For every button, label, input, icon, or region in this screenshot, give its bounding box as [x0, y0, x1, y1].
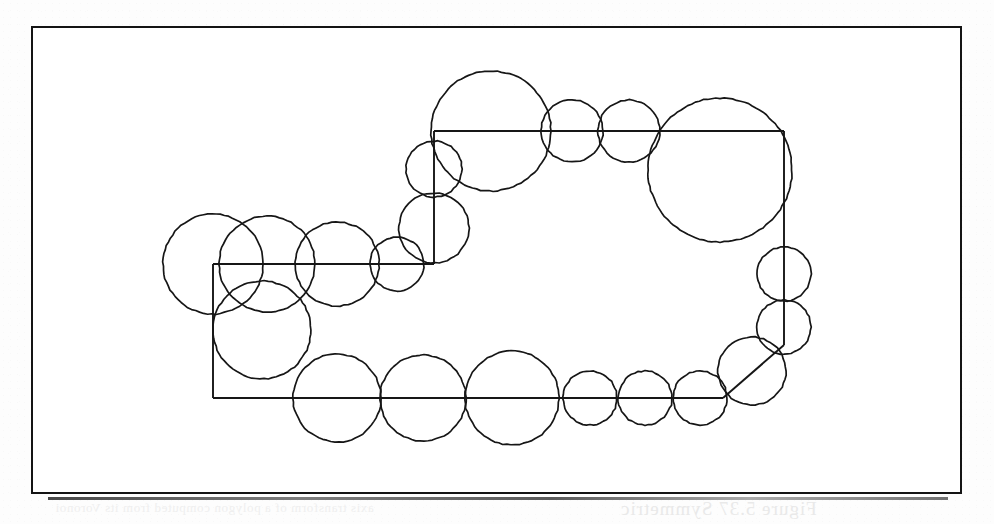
- bleed-through-caption-label: Figure 5.37 Symmetric: [620, 498, 817, 520]
- bleed-through-text-left: axis transform of a polygon computed fro…: [55, 500, 374, 516]
- figure-frame: [31, 26, 962, 494]
- scanned-page: the set of maximal inscribed disks of th…: [0, 0, 994, 524]
- scan-edge-smudge: [48, 497, 948, 500]
